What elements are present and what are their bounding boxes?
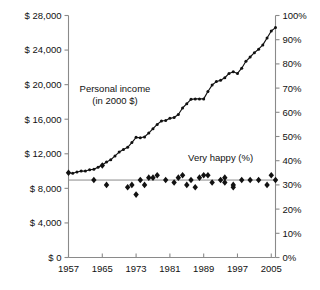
left-tick-label: $ 20,000 [25,79,62,90]
x-tick-label: 1981 [159,263,180,274]
x-tick-label: 1957 [58,263,79,274]
x-tick-label: 1989 [193,263,214,274]
left-tick-label: $ 4,000 [30,217,62,228]
income-data-point [75,170,78,173]
left-axis-tick-labels: $ 0$ 4,000$ 8,000$ 12,000$ 16,000$ 20,00… [25,10,62,263]
income-data-point [164,119,167,122]
left-tick-label: $ 0 [48,252,61,263]
very-happy-data-point [104,182,109,189]
income-data-point [113,154,116,157]
left-tick-label: $ 24,000 [25,44,62,55]
left-axis-ticks [65,16,69,258]
income-data-point [105,161,108,164]
income-data-point [211,84,214,87]
income-data-point [143,135,146,138]
right-tick-label: 80% [283,58,303,69]
x-tick-label: 1973 [126,263,147,274]
income-data-point [253,51,256,54]
very-happy-data-point [256,177,261,184]
very-happy-annotation-line: Very happy (%) [188,152,253,163]
very-happy-data-point [133,191,138,198]
income-data-point [244,60,247,63]
income-data-point [97,166,100,169]
income-data-point [270,30,273,33]
very-happy-data-point [142,182,147,189]
income-data-point [228,72,231,75]
income-data-point [185,102,188,105]
right-axis-tick-labels: 0%10%20%30%40%50%60%70%80%90%100% [283,10,308,263]
left-tick-label: $ 8,000 [30,183,62,194]
income-data-point [232,70,235,73]
x-tick-label: 2005 [261,263,282,274]
income-data-point [151,127,154,130]
chart-annotations: Personal income(in 2000 $)Very happy (%) [80,83,253,163]
income-data-point [160,119,163,122]
left-axis-group: $ 0$ 4,000$ 8,000$ 12,000$ 16,000$ 20,00… [25,10,69,263]
very-happy-data-point [239,177,244,184]
left-tick-label: $ 12,000 [25,148,62,159]
income-data-point [223,76,226,79]
income-data-point [236,72,239,75]
income-data-point [274,26,277,29]
very-happy-data-point [264,182,269,189]
income-data-point [80,170,83,173]
x-tick-label: 1997 [227,263,248,274]
x-axis-group: 1957196519731981198919972005 [58,254,282,274]
income-data-point [122,148,125,151]
x-axis-ticks [69,254,272,258]
very-happy-data-point [273,177,278,184]
left-tick-label: $ 28,000 [25,10,62,21]
income-data-point [215,80,218,83]
x-axis-tick-labels: 1957196519731981198919972005 [58,263,282,274]
income-data-point [173,116,176,119]
x-tick-label: 1965 [92,263,113,274]
income-data-point [190,98,193,101]
income-data-point [240,67,243,70]
left-tick-label: $ 16,000 [25,114,62,125]
income-data-point [139,136,142,139]
income-data-point [194,97,197,100]
right-tick-label: 0% [283,252,297,263]
right-tick-label: 40% [283,155,303,166]
right-axis-group: 0%10%20%30%40%50%60%70%80%90%100% [276,10,308,263]
very-happy-data-point [163,177,168,184]
income-data-point [202,97,205,100]
income-data-point [71,172,74,175]
income-happiness-chart: $ 0$ 4,000$ 8,000$ 12,000$ 16,000$ 20,00… [0,0,320,290]
right-tick-label: 90% [283,34,303,45]
right-tick-label: 60% [283,107,303,118]
right-tick-label: 10% [283,228,303,239]
income-data-point [261,43,264,46]
income-data-point [219,79,222,82]
right-tick-label: 20% [283,204,303,215]
income-data-point [168,117,171,120]
income-data-point [206,90,209,93]
very-happy-data-point [188,177,193,184]
very-happy-data-point [193,184,198,191]
very-happy-data-point [91,177,96,184]
income-data-point [156,123,159,126]
right-tick-label: 50% [283,131,303,142]
income-data-point [84,170,87,173]
income-data-point [118,151,121,154]
very-happy-data-point [269,172,274,179]
income-data-point [257,48,260,51]
personal-income-annotation-line: Personal income [80,83,151,94]
income-data-point [177,113,180,116]
very-happy-data-point [247,177,252,184]
income-data-point [109,158,112,161]
income-data-point [92,168,95,171]
income-data-point [88,168,91,171]
income-data-point [135,136,138,139]
very-happy-data-point [138,177,143,184]
personal-income-annotation-line: (in 2000 $) [92,95,137,106]
very-happy-data-point [184,182,189,189]
income-data-point [266,36,269,39]
income-data-point [198,97,201,100]
income-data-point [126,146,129,149]
very-happy-data-point [66,170,71,177]
right-tick-label: 30% [283,179,303,190]
right-tick-label: 100% [283,10,308,21]
income-data-point [181,106,184,109]
right-tick-label: 70% [283,83,303,94]
